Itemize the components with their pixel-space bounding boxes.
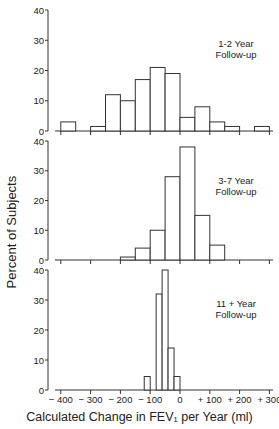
x-tick-label: − 100 xyxy=(138,394,162,405)
histogram-bar xyxy=(180,117,195,131)
histogram-bar xyxy=(150,67,165,131)
x-tick-label: 0 xyxy=(177,394,182,405)
y-tick-label: 20 xyxy=(33,195,44,206)
panel-label: Follow-up xyxy=(215,309,256,320)
y-tick-label: 30 xyxy=(33,35,44,46)
histogram-bar xyxy=(135,80,150,131)
panel-label: Follow-up xyxy=(215,186,256,197)
y-tick-label: 10 xyxy=(33,225,44,236)
histogram-bar xyxy=(165,74,180,131)
y-tick-label: 40 xyxy=(33,265,44,276)
y-tick-label: 30 xyxy=(33,295,44,306)
y-tick-label: 10 xyxy=(33,95,44,106)
histogram-bar xyxy=(168,348,174,390)
x-tick-label: − 400 xyxy=(49,394,73,405)
histogram-bar xyxy=(195,107,210,131)
panel-label: 1-2 Year xyxy=(218,38,253,49)
y-tick-label: 0 xyxy=(39,385,44,396)
histogram-bar xyxy=(174,377,180,391)
y-tick-label: 20 xyxy=(33,65,44,76)
histogram-bar xyxy=(210,245,225,260)
histogram-chart: 0102030401-2 YearFollow-up0102030403-7 Y… xyxy=(0,0,279,429)
histogram-bar xyxy=(106,95,121,131)
histogram-bar xyxy=(120,101,135,131)
histogram-bar xyxy=(195,215,210,260)
x-tick-label: + 200 xyxy=(228,394,252,405)
histogram-bar xyxy=(162,270,168,390)
x-tick-label: − 200 xyxy=(108,394,132,405)
histogram-bar xyxy=(156,294,162,390)
histogram-bar xyxy=(135,248,150,260)
x-tick-label: + 300 xyxy=(257,394,279,405)
histogram-bar xyxy=(180,147,195,260)
y-tick-label: 20 xyxy=(33,325,44,336)
y-tick-label: 40 xyxy=(33,136,44,147)
histogram-bar xyxy=(120,257,135,260)
panel-label: Follow-up xyxy=(215,49,256,60)
histogram-bar xyxy=(225,126,240,131)
histogram-bar xyxy=(91,126,106,131)
x-tick-label: − 300 xyxy=(79,394,103,405)
x-axis-title: Calculated Change in FEV₁ per Year (ml) xyxy=(0,410,279,424)
histogram-bar xyxy=(61,122,76,131)
histogram-bar xyxy=(144,377,150,391)
y-tick-label: 30 xyxy=(33,165,44,176)
y-tick-label: 40 xyxy=(33,5,44,16)
y-tick-label: 10 xyxy=(33,355,44,366)
histogram-bar xyxy=(255,126,270,131)
histogram-bar xyxy=(150,230,165,260)
histogram-bar xyxy=(165,177,180,260)
panel-label: 11 + Year xyxy=(216,298,256,309)
x-tick-label: + 100 xyxy=(198,394,222,405)
panel-label: 3-7 Year xyxy=(218,175,253,186)
y-axis-title: Percent of Subjects xyxy=(4,179,19,289)
histogram-bar xyxy=(210,122,225,131)
